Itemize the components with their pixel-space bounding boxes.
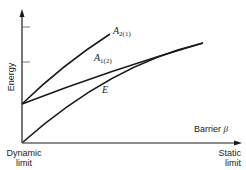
y-axis-label: Energy	[6, 62, 16, 92]
curve-a12	[22, 43, 203, 104]
x-axis-arrow-icon	[234, 141, 242, 146]
curve-e	[23, 43, 203, 142]
curve-label-a21: A2(1)	[113, 26, 131, 39]
x-axis-label: Barrier β	[194, 124, 228, 134]
curve-label-a12: A1(2)	[94, 53, 112, 66]
static-limit-label: Static limit	[206, 148, 241, 168]
dynamic-limit-label: Dynamic limit	[2, 148, 46, 168]
curve-a21	[22, 34, 110, 104]
y-axis-arrow-icon	[20, 9, 25, 17]
curve-label-e: E	[102, 85, 108, 95]
